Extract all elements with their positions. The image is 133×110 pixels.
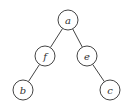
node-e: e <box>77 46 97 66</box>
edge-a-e <box>73 29 83 47</box>
node-a: a <box>58 10 78 30</box>
node-label: b <box>20 85 26 96</box>
node-c: c <box>100 80 120 100</box>
node-label: e <box>84 51 90 62</box>
tree-diagram: afebc <box>0 0 133 110</box>
node-label: c <box>107 85 113 96</box>
nodes: afebc <box>13 10 120 100</box>
edge-a-f <box>50 28 62 47</box>
edge-e-c <box>93 64 105 81</box>
node-f: f <box>35 46 55 66</box>
node-label: a <box>65 15 71 26</box>
node-b: b <box>13 80 33 100</box>
edge-f-b <box>28 64 39 81</box>
